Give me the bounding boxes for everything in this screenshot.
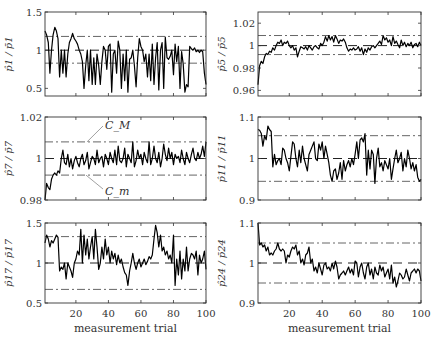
x-tick-label: 60 xyxy=(349,308,362,319)
panel-p7: 0.9811.02p̂7 / p̄7C_MC_m xyxy=(3,112,206,206)
y-tick-label: 1 xyxy=(36,45,42,56)
data-series-line xyxy=(45,225,206,285)
data-series-line xyxy=(258,223,421,287)
y-tick-label: 0.9 xyxy=(239,195,255,206)
x-axis-label: measurement trial xyxy=(74,322,178,335)
data-series-line xyxy=(45,27,206,92)
y-axis-label: p̂17 / p̄17 xyxy=(3,238,14,287)
y-tick-label: 1.02 xyxy=(233,18,255,29)
y-axis-label: p̂11 / p̄11 xyxy=(216,135,227,183)
axes-frame xyxy=(258,12,421,96)
panel-p17: 0.511.5p̂17 / p̄1720406080100measurement… xyxy=(3,218,216,336)
y-tick-label: 0.5 xyxy=(26,83,42,94)
panel-p24: 0.911.1p̂24 / p̄2420406080100measurement… xyxy=(216,218,431,336)
y-tick-label: 1.02 xyxy=(20,112,42,123)
annotation-leader-upper xyxy=(87,126,103,142)
panel-p11: 0.911.1p̂11 / p̄11 xyxy=(216,112,421,206)
y-tick-label: 1 xyxy=(36,258,42,269)
figure: 0.511.5p̂1 / p̄10.960.9811.02p̂5 / p̄50.… xyxy=(0,0,432,340)
y-axis-label: p̂1 / p̄1 xyxy=(3,36,14,71)
annotation-leader-lower xyxy=(86,175,103,189)
panel-p1: 0.511.5p̂1 / p̄1 xyxy=(3,7,206,97)
x-tick-label: 80 xyxy=(382,308,395,319)
panel-p5: 0.960.9811.02p̂5 / p̄5 xyxy=(216,12,421,96)
x-tick-label: 40 xyxy=(316,308,329,319)
y-axis-label: p̂5 / p̄5 xyxy=(216,36,227,71)
y-tick-label: 1.1 xyxy=(239,218,255,229)
data-series-line xyxy=(258,36,421,85)
x-tick-label: 80 xyxy=(167,308,180,319)
y-tick-label: 1 xyxy=(36,153,42,164)
x-tick-label: 100 xyxy=(196,308,215,319)
y-axis-label: p̂7 / p̄7 xyxy=(3,140,14,176)
x-tick-label: 100 xyxy=(411,308,430,319)
y-tick-label: 0.96 xyxy=(233,85,255,96)
y-tick-label: 0.5 xyxy=(26,298,42,309)
x-tick-label: 60 xyxy=(135,308,148,319)
x-tick-label: 20 xyxy=(70,308,83,319)
y-tick-label: 1.1 xyxy=(239,112,255,123)
y-tick-label: 1.5 xyxy=(26,7,42,18)
y-tick-label: 0.9 xyxy=(239,298,255,309)
y-tick-label: 0.98 xyxy=(20,195,42,206)
annotation-lower-bound: C_m xyxy=(105,185,129,198)
x-axis-label: measurement trial xyxy=(288,322,392,335)
y-tick-label: 1.5 xyxy=(26,218,42,229)
y-tick-label: 1 xyxy=(249,258,255,269)
data-series-line xyxy=(258,126,421,183)
x-tick-label: 20 xyxy=(283,308,296,319)
y-tick-label: 1 xyxy=(249,153,255,164)
y-tick-label: 1 xyxy=(249,40,255,51)
x-tick-label: 40 xyxy=(102,308,115,319)
annotation-upper-bound: C_M xyxy=(105,119,131,132)
y-axis-label: p̂24 / p̄24 xyxy=(216,239,227,287)
y-tick-label: 0.98 xyxy=(233,63,255,74)
